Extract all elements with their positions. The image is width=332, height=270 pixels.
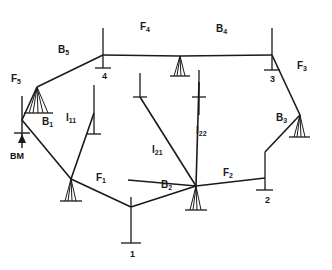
truss-diagram-svg	[0, 0, 332, 270]
support-center-bottom	[185, 186, 207, 210]
benchmark-arrow-icon	[18, 134, 26, 143]
diagram-canvas: F5 B5 F4 B4 F3 B3 B1 I11 I21 I22 F1 B2 F…	[0, 0, 332, 270]
member-label-B4: B4	[216, 24, 227, 34]
member-I21	[140, 97, 196, 186]
station-label-1: 1	[130, 250, 135, 259]
member-label-F1: F1	[96, 173, 106, 183]
station-label-2: 2	[265, 196, 270, 205]
member-F4	[103, 55, 180, 56]
station-label-3: 3	[270, 75, 275, 84]
member-label-I22: I22	[196, 126, 207, 136]
member-label-I21: I21	[152, 145, 163, 155]
support-center-top	[170, 56, 190, 76]
member-label-F2: F2	[223, 168, 233, 178]
member-label-F4: F4	[140, 22, 150, 32]
member-label-B2: B2	[161, 180, 172, 190]
member-B4	[180, 55, 272, 56]
member-F3	[272, 55, 300, 115]
member-label-B5: B5	[58, 45, 69, 55]
member-label-F3: F3	[297, 61, 307, 71]
member-B1	[22, 120, 71, 179]
support-right	[289, 115, 310, 137]
member-label-F5: F5	[11, 74, 21, 84]
benchmark-label: BM	[10, 152, 24, 161]
member-label-B3: B3	[276, 113, 287, 123]
member-F2	[196, 178, 265, 186]
member-F1	[71, 179, 131, 207]
member-label-I11: I11	[66, 113, 76, 123]
member-label-B1: B1	[42, 117, 53, 127]
station-label-4: 4	[102, 72, 107, 81]
support-apex-left	[24, 87, 53, 113]
member-B5	[37, 55, 103, 87]
